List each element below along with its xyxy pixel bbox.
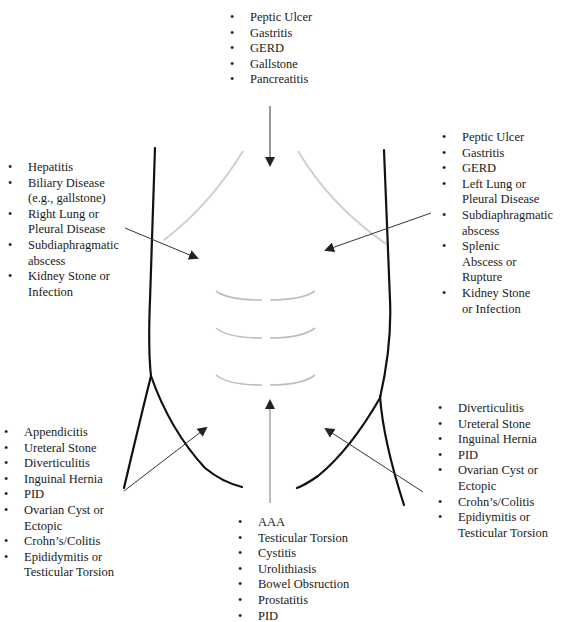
- item-text: Peptic Ulcer: [462, 130, 553, 146]
- item-text: Gastritis: [250, 26, 312, 42]
- item-text: Right Lung or: [28, 207, 119, 223]
- item-text: abscess: [28, 254, 119, 270]
- item-text: Bowel Obsruction: [258, 577, 349, 593]
- item-text: Ureteral Stone: [24, 441, 114, 457]
- abdominal-muscle-lines: [216, 291, 315, 385]
- item-text: Gallstone: [250, 57, 312, 73]
- list-item: AAA: [236, 515, 349, 531]
- list-left-upper-quadrant: Peptic Ulcer Gastritis GERD Left Lung or…: [440, 130, 553, 317]
- item-text: Crohn’s/Colitis: [458, 495, 548, 511]
- item-text: Subdiaphragmatic: [28, 238, 119, 254]
- list-right-upper-quadrant: Hepatitis Biliary Disease(e.g., gallston…: [6, 160, 119, 300]
- list-item: Crohn’s/Colitis: [436, 495, 548, 511]
- list-item: Crohn’s/Colitis: [2, 534, 114, 550]
- item-text: Pancreatitis: [250, 72, 312, 88]
- item-text: or Infection: [462, 302, 553, 318]
- item-text: Pleural Disease: [462, 192, 553, 208]
- arrow-left-lower-quadrant: [326, 429, 423, 492]
- list-item: Prostatitis: [236, 593, 349, 609]
- item-text: Hepatitis: [28, 160, 119, 176]
- list-right-lower-quadrant: Appendicitis Ureteral Stone Diverticulit…: [2, 425, 114, 581]
- item-text: Appendicitis: [24, 425, 114, 441]
- item-text: Left Lung or: [462, 177, 553, 193]
- list-left-lower-quadrant: Diverticulitis Ureteral Stone Inguinal H…: [436, 401, 548, 541]
- list-item: Ureteral Stone: [436, 417, 548, 433]
- list-item: Epidiymitis orTesticular Torsion: [436, 510, 548, 541]
- left-inguinal-line: [151, 376, 242, 487]
- list-item: Epididymitis orTesticular Torsion: [2, 550, 114, 581]
- list-item: Subdiaphragmaticabscess: [440, 208, 553, 239]
- item-text: Testicular Torsion: [258, 531, 349, 547]
- item-text: Ectopic: [24, 519, 114, 535]
- item-text: Abscess or: [462, 255, 553, 271]
- item-text: Biliary Disease: [28, 176, 119, 192]
- list-item: Inguinal Hernia: [2, 472, 114, 488]
- item-text: PID: [24, 487, 114, 503]
- item-text: AAA: [258, 515, 349, 531]
- right-flank-outline: [297, 150, 390, 488]
- list-item: PID: [236, 609, 349, 622]
- item-text: Splenic: [462, 239, 553, 255]
- list-epigastric: Peptic Ulcer Gastritis GERD Gallstone Pa…: [228, 10, 312, 88]
- item-text: Pleural Disease: [28, 222, 119, 238]
- item-text: Cystitis: [258, 546, 349, 562]
- list-item: Testicular Torsion: [236, 531, 349, 547]
- left-flank-outline: [124, 148, 155, 488]
- left-costal-margin: [164, 151, 243, 240]
- list-item: Ureteral Stone: [2, 441, 114, 457]
- item-text: Ovarian Cyst or: [458, 463, 548, 479]
- rib-cage-lines: [164, 151, 386, 244]
- list-suprapubic: AAA Testicular Torsion Cystitis Urolithi…: [236, 515, 349, 622]
- list-item: Bowel Obsruction: [236, 577, 349, 593]
- item-text: Crohn’s/Colitis: [24, 534, 114, 550]
- item-text: PID: [458, 448, 548, 464]
- item-text: Gastritis: [462, 146, 553, 162]
- list-item: Appendicitis: [2, 425, 114, 441]
- item-text: Kidney Stone: [462, 286, 553, 302]
- list-item: Urolithiasis: [236, 562, 349, 578]
- body-outline: [124, 148, 404, 505]
- list-item: GERD: [440, 161, 553, 177]
- arrow-left-upper-quadrant: [326, 213, 431, 250]
- list-item: Ovarian Cyst orEctopic: [2, 503, 114, 534]
- item-text: Inguinal Hernia: [24, 472, 114, 488]
- item-text: Peptic Ulcer: [250, 10, 312, 26]
- item-text: Prostatitis: [258, 593, 349, 609]
- list-item: Subdiaphragmaticabscess: [6, 238, 119, 269]
- list-item: Peptic Ulcer: [440, 130, 553, 146]
- list-item: Peptic Ulcer: [228, 10, 312, 26]
- list-item: SplenicAbscess orRupture: [440, 239, 553, 286]
- item-text: Urolithiasis: [258, 562, 349, 578]
- item-text: abscess: [462, 224, 553, 240]
- list-item: GERD: [228, 41, 312, 57]
- item-text: Epidiymitis or: [458, 510, 548, 526]
- right-thigh-line: [380, 396, 404, 505]
- item-text: Testicular Torsion: [24, 565, 114, 581]
- item-text: Epididymitis or: [24, 550, 114, 566]
- item-text: (e.g., gallstone): [28, 191, 119, 207]
- list-item: Left Lung orPleural Disease: [440, 177, 553, 208]
- item-text: Diverticulitis: [458, 401, 548, 417]
- list-item: Kidney Stone orInfection: [6, 269, 119, 300]
- item-text: Kidney Stone or: [28, 269, 119, 285]
- list-item: Biliary Disease(e.g., gallstone): [6, 176, 119, 207]
- item-text: GERD: [250, 41, 312, 57]
- item-text: Infection: [28, 285, 119, 301]
- item-text: Diverticulitis: [24, 456, 114, 472]
- list-item: PID: [436, 448, 548, 464]
- item-text: Testicular Torsion: [458, 526, 548, 542]
- right-costal-margin: [298, 151, 386, 244]
- list-item: Kidney Stoneor Infection: [440, 286, 553, 317]
- list-item: Gastritis: [440, 146, 553, 162]
- list-item: Ovarian Cyst orEctopic: [436, 463, 548, 494]
- item-text: Subdiaphragmatic: [462, 208, 553, 224]
- list-item: Gastritis: [228, 26, 312, 42]
- list-item: Diverticulitis: [2, 456, 114, 472]
- item-text: PID: [258, 609, 349, 622]
- list-item: Pancreatitis: [228, 72, 312, 88]
- item-text: Ectopic: [458, 479, 548, 495]
- item-text: Rupture: [462, 270, 553, 286]
- list-item: Cystitis: [236, 546, 349, 562]
- item-text: Ovarian Cyst or: [24, 503, 114, 519]
- arrow-right-upper-quadrant: [125, 228, 197, 258]
